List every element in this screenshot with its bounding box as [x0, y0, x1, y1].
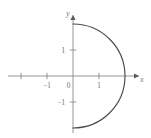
- x-tick-label-minus1: −1: [43, 82, 51, 90]
- y-tick-label-minus1: −1: [57, 99, 65, 107]
- x-tick-label-plus1: 1: [97, 82, 101, 90]
- x-axis-arrowhead: [134, 73, 139, 78]
- figure-container: −1 1 0 1 −1 x y: [0, 0, 151, 138]
- origin-label: 0: [67, 82, 71, 90]
- plot-canvas: −1 1 0 1 −1 x y: [0, 0, 151, 138]
- y-axis-arrowhead: [70, 15, 75, 20]
- x-axis-label: x: [139, 75, 144, 84]
- y-tick-label-plus1: 1: [61, 47, 65, 55]
- y-axis-label: y: [65, 9, 70, 18]
